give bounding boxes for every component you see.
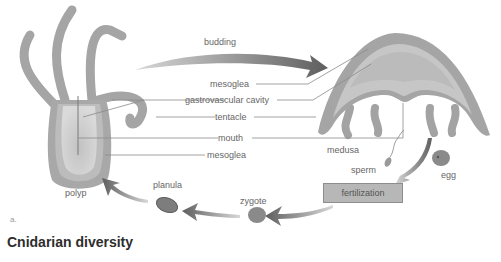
mesoglea-top-label: mesoglea <box>210 79 249 89</box>
polyp <box>48 96 111 189</box>
medusa-label: medusa <box>327 145 359 155</box>
sperm-label: sperm <box>351 165 376 175</box>
tentacle-label: tentacle <box>215 112 247 122</box>
life-cycle-diagram <box>0 0 501 262</box>
planula-label: planula <box>153 180 182 190</box>
fertilization-box: fertilization <box>323 183 403 203</box>
budding-arrow <box>135 54 328 78</box>
zygote-to-planula-arrow <box>182 203 240 221</box>
planula <box>154 195 179 216</box>
mouth-label: mouth <box>218 133 243 143</box>
egg-label: egg <box>441 170 456 180</box>
egg <box>432 150 450 166</box>
section-title: Cnidarian diversity <box>7 234 133 250</box>
fertilization-to-zygote-arrow <box>265 205 333 226</box>
medusa-to-fertilization-arrow <box>395 138 432 185</box>
mesoglea-bottom-label: mesoglea <box>207 150 246 160</box>
polyp-label: polyp <box>65 188 87 198</box>
sperm <box>383 130 404 168</box>
zygote-label: zygote <box>240 196 267 206</box>
zygote <box>248 207 266 223</box>
panel-label: a. <box>10 215 17 225</box>
gastrovascular-cavity-label: gastrovascular cavity <box>185 95 269 105</box>
planula-to-polyp-arrow <box>102 178 148 203</box>
medusa <box>318 33 490 136</box>
budding-label: budding <box>204 37 236 47</box>
